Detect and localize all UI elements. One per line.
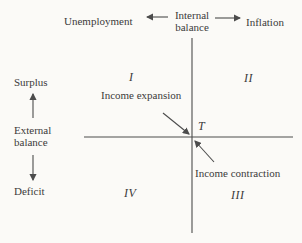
internal-balance-label: Internal balance — [168, 9, 216, 33]
diagram-geometry — [0, 0, 302, 243]
income-contraction-label: Income contraction — [195, 167, 280, 179]
surplus-label: Surplus — [14, 76, 48, 88]
quadrant-1-label: I — [129, 71, 134, 83]
internal-balance-line2: balance — [175, 21, 209, 33]
quadrant-4-label: IV — [124, 187, 136, 199]
internal-balance-line1: Internal — [175, 9, 209, 21]
income-contraction-arrow-icon — [195, 141, 214, 162]
equilibrium-point-label: T — [198, 120, 205, 132]
deficit-label: Deficit — [14, 185, 45, 197]
external-balance-label: External balance — [14, 124, 51, 148]
income-expansion-arrow-icon — [163, 113, 189, 134]
external-balance-line2: balance — [14, 136, 48, 148]
quadrant-2-label: II — [244, 72, 253, 84]
external-balance-line1: External — [14, 124, 51, 136]
income-expansion-label: Income expansion — [101, 89, 181, 101]
quadrant-3-label: III — [231, 189, 245, 201]
unemployment-label: Unemployment — [64, 15, 132, 27]
swan-diagram-figure: Unemployment Internal balance Inflation … — [0, 0, 302, 243]
inflation-label: Inflation — [246, 16, 284, 28]
